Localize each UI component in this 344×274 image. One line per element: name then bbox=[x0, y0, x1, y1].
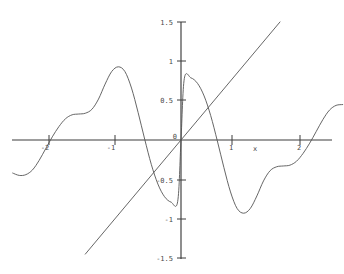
y-tick-label-neg1: -1 bbox=[165, 216, 173, 224]
y-tick-label-origin: 0 bbox=[173, 133, 177, 141]
y-tick-labels: 1.5 1 0.5 0 -0.5 -1 -1.5 bbox=[156, 19, 177, 263]
y-tick-label-neg0p5: -0.5 bbox=[156, 177, 173, 185]
plot-canvas: -2 -1 1 2 1.5 1 0.5 0 -0.5 -1 -1.5 x bbox=[0, 0, 344, 274]
y-tick-label-neg1p5: -1.5 bbox=[156, 255, 173, 263]
y-tick-label-pos0p5: 0.5 bbox=[160, 97, 173, 105]
y-tick-label-pos1: 1 bbox=[169, 58, 173, 66]
x-tick-label-pos2: 2 bbox=[297, 144, 301, 152]
x-axis-label: x bbox=[253, 145, 257, 153]
y-tick-label-pos1p5: 1.5 bbox=[160, 19, 173, 27]
x-tick-labels: -2 -1 1 2 bbox=[41, 144, 301, 152]
x-tick-label-neg1: -1 bbox=[107, 144, 115, 152]
function-plot-figure: -2 -1 1 2 1.5 1 0.5 0 -0.5 -1 -1.5 x bbox=[0, 0, 344, 274]
x-tick-label-pos1: 1 bbox=[229, 144, 233, 152]
